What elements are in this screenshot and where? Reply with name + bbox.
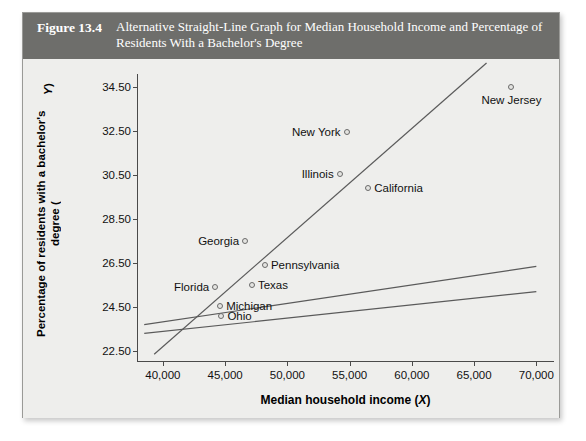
y-tick-label: 22.50 bbox=[102, 345, 131, 357]
x-tick-label: 50,000 bbox=[270, 369, 305, 381]
x-tick-mark bbox=[350, 361, 351, 366]
lower-shallow-line bbox=[144, 292, 536, 334]
data-point[interactable] bbox=[249, 282, 255, 288]
y-tick-mark bbox=[133, 87, 138, 88]
steep-line bbox=[154, 63, 486, 354]
data-point-label: California bbox=[374, 182, 423, 194]
data-point-label: Texas bbox=[258, 279, 288, 291]
x-tick-mark bbox=[536, 361, 537, 366]
y-tick-label: 26.50 bbox=[102, 257, 131, 269]
figure-caption: Alternative Straight-Line Graph for Medi… bbox=[116, 19, 545, 51]
x-tick-mark bbox=[163, 361, 164, 366]
y-tick-label: 34.50 bbox=[102, 81, 131, 93]
x-tick-label: 40,000 bbox=[145, 369, 180, 381]
y-tick-mark bbox=[133, 263, 138, 264]
y-tick-label: 24.50 bbox=[102, 301, 131, 313]
middle-shallow-line bbox=[144, 266, 536, 324]
x-tick-label: 65,000 bbox=[456, 369, 491, 381]
data-point[interactable] bbox=[337, 171, 343, 177]
x-tick-label: 45,000 bbox=[208, 369, 243, 381]
chart-body: Percentage of residents with a bachelor'… bbox=[23, 59, 559, 418]
y-tick-label: 32.50 bbox=[102, 125, 131, 137]
y-tick-mark bbox=[133, 307, 138, 308]
data-point-label: Georgia bbox=[198, 235, 239, 247]
x-axis-title-text: Median household income (X) bbox=[260, 393, 430, 407]
data-point-label: Ohio bbox=[227, 310, 251, 322]
data-point-label: New York bbox=[292, 126, 341, 138]
x-tick-mark bbox=[225, 361, 226, 366]
x-tick-mark bbox=[474, 361, 475, 366]
y-tick-mark bbox=[133, 175, 138, 176]
y-tick-mark bbox=[133, 131, 138, 132]
data-point-label: Pennsylvania bbox=[271, 259, 339, 271]
data-point-label: Florida bbox=[174, 281, 209, 293]
data-point-label: Illinois bbox=[302, 168, 334, 180]
x-tick-mark bbox=[412, 361, 413, 366]
data-point-label: New Jersey bbox=[481, 94, 541, 106]
x-tick-label: 70,000 bbox=[519, 369, 554, 381]
x-axis-title: Median household income (X) bbox=[137, 393, 554, 407]
x-tick-mark bbox=[287, 361, 288, 366]
figure-number: Figure 13.4 bbox=[37, 19, 102, 36]
y-tick-label: 28.50 bbox=[102, 213, 131, 225]
y-tick-mark bbox=[133, 351, 138, 352]
plot-area: New JerseyNew YorkIllinoisCaliforniaGeor… bbox=[138, 74, 554, 361]
trend-lines-group bbox=[138, 74, 555, 362]
figure-header: Figure 13.4 Alternative Straight-Line Gr… bbox=[23, 13, 559, 59]
y-tick-mark bbox=[133, 219, 138, 220]
data-point[interactable] bbox=[344, 129, 350, 135]
x-tick-label: 60,000 bbox=[394, 369, 429, 381]
plot-frame: New JerseyNew YorkIllinoisCaliforniaGeor… bbox=[137, 74, 554, 362]
figure-panel: Figure 13.4 Alternative Straight-Line Gr… bbox=[22, 12, 560, 418]
y-tick-label: 30.50 bbox=[102, 169, 131, 181]
y-axis-title: Percentage of residents with a bachelor'… bbox=[37, 83, 59, 353]
x-tick-label: 55,000 bbox=[332, 369, 367, 381]
